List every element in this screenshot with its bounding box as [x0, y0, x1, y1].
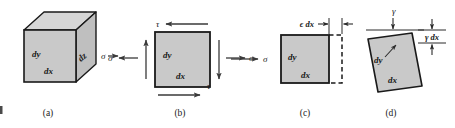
element-b-stress-sigma-right: σ [249, 53, 254, 63]
cube-label-dx: dx [44, 66, 54, 76]
panel-b-caption: (b) [174, 108, 185, 119]
cube-stress-sigma-right: σ [101, 51, 106, 61]
element-c-dimension-label-epsilon-dx: ϵ dx [300, 19, 315, 29]
element-c-deformed-outline [329, 35, 342, 83]
element-b-label-dy: dy [163, 50, 173, 60]
element-c-stress-sigma-left: σ [263, 54, 268, 64]
element-d-label-dy: dy [374, 55, 384, 65]
element-d-dimension-label-gamma-dx: γ dx [425, 32, 440, 42]
element-b-stress-tau-top: τ [156, 19, 160, 29]
panel-c-normal-strain-element: dy dx σ ϵ dx (c) [231, 18, 353, 119]
element-d-strain-label-gamma: γ [392, 6, 396, 16]
panel-a-caption: (a) [43, 108, 54, 119]
panel-c-caption: (c) [300, 108, 311, 119]
panel-d-shear-strain-element: dy dx γ γ dx (d) [366, 6, 446, 119]
panel-b-shear-stress-element: dy dx τ τ σ σ (b) [108, 19, 254, 119]
element-c-label-dy: dy [288, 52, 298, 62]
panel-a-cube-element: dy dx dz σ (a) [24, 12, 118, 119]
element-d-label-dx: dx [388, 75, 398, 85]
element-b-label-dx: dx [176, 71, 186, 81]
panel-d-caption: (d) [385, 108, 396, 119]
figure-container: dy dx dz σ (a) dy dx τ τ [0, 0, 455, 128]
element-c-label-dx: dx [301, 70, 311, 80]
left-edge-artifact [0, 106, 3, 114]
cube-label-dy: dy [32, 49, 42, 59]
stress-strain-element-figure: dy dx dz σ (a) dy dx τ τ [0, 0, 455, 128]
element-b-stress-sigma-left: σ [108, 53, 113, 63]
